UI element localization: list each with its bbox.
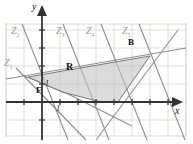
region-label-r: R: [66, 62, 73, 72]
constraint-label-z2: Z2: [11, 26, 20, 38]
y-tick-label-one: 1: [45, 80, 49, 88]
constraint-label-z1: Z1: [4, 58, 13, 70]
x-axis-label: x: [175, 106, 179, 116]
graph-canvas: [0, 0, 193, 144]
vertex-label-b: B: [128, 38, 134, 47]
math-graph-figure: Z1 Z2 Z3 Z4 Z5 B F R 1 1 x y: [0, 0, 193, 144]
vertex-label-f: F: [36, 86, 42, 95]
y-axis-label: y: [32, 2, 36, 12]
constraint-label-z3: Z3: [56, 26, 65, 38]
y-axis-arrow: [37, 5, 47, 16]
x-tick-label-one: 1: [56, 105, 60, 113]
constraint-label-z4: Z4: [86, 26, 95, 38]
